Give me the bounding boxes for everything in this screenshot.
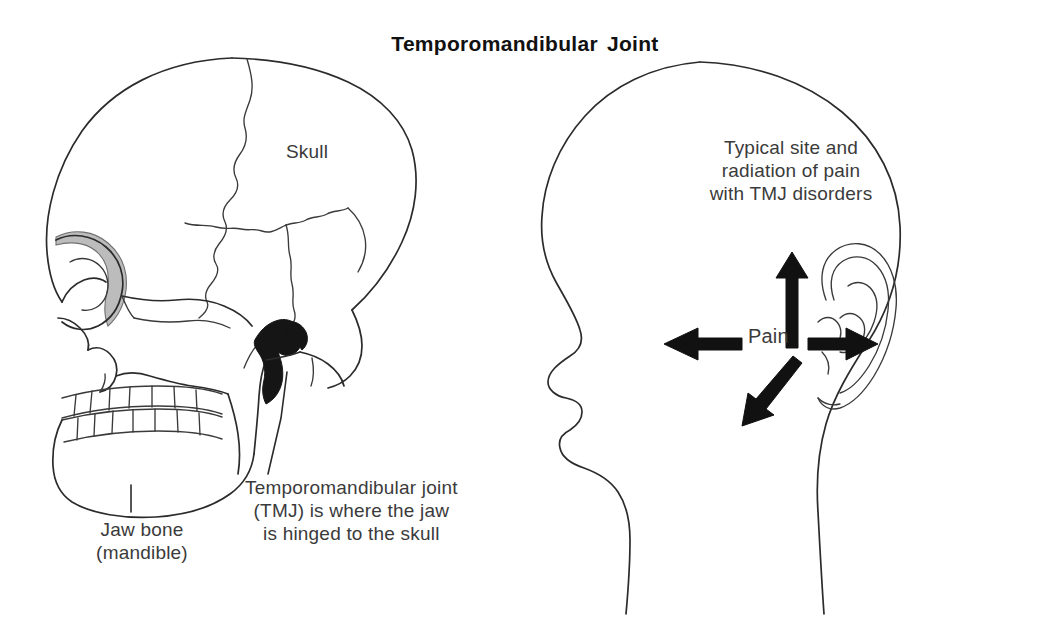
jaw-bone-label: Jaw bone (mandible) <box>62 518 222 564</box>
ear-helix-outer <box>818 244 896 409</box>
cranium-outline-right <box>232 58 416 310</box>
coronal-suture <box>199 59 252 318</box>
mastoid-process <box>300 352 344 386</box>
ear-antitragus <box>822 352 829 374</box>
mandible-ramus-front <box>228 394 240 474</box>
styloid-process <box>311 358 313 386</box>
typical-site-label: Typical site and radiation of pain with … <box>676 136 906 205</box>
squamosal-suture <box>185 208 348 232</box>
page-title: Temporomandibular Joint <box>0 32 1050 56</box>
frontal-bone-edge <box>62 278 106 302</box>
zygomatic-arch-lower <box>134 318 230 328</box>
pain-arrow-left <box>664 328 742 360</box>
cranium-outline <box>47 58 232 302</box>
zygomatic-body <box>122 296 134 318</box>
skull-drawing <box>47 58 417 517</box>
tmj-description-label: Temporomandibular joint (TMJ) is where t… <box>245 476 458 545</box>
ear-drawing <box>818 244 896 409</box>
mandible-ramus <box>254 360 266 454</box>
pain-arrow-down-left <box>742 356 802 426</box>
lambdoid-suture <box>286 225 295 330</box>
diagram-canvas: Temporomandibular Joint Skull Temporoman… <box>0 0 1050 630</box>
pain-arrow-right-to-ear <box>808 328 878 360</box>
upper-teeth <box>62 386 222 418</box>
lower-teeth <box>62 409 222 442</box>
temporal-line <box>348 208 366 272</box>
skull-label: Skull <box>286 140 328 163</box>
ear-helix-inner <box>831 257 888 393</box>
pain-label: Pain <box>748 325 789 348</box>
occipital-lower <box>328 310 362 388</box>
nasal-aperture <box>88 348 117 392</box>
mandible-outline <box>53 420 254 517</box>
